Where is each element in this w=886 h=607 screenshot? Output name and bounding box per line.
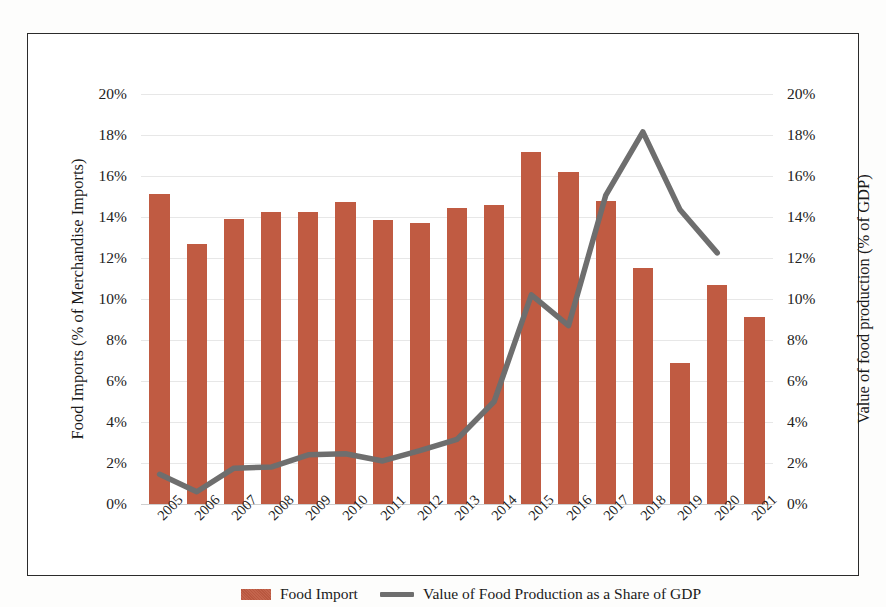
gridline-16% <box>141 176 773 177</box>
y-axis-left-tick-label: 8% <box>106 332 127 348</box>
bar-2007 <box>224 219 244 504</box>
y-axis-left-tick-label: 4% <box>106 414 127 430</box>
y-axis-right-tick-label: 10% <box>787 291 815 307</box>
y-axis-left-tick-label: 0% <box>106 496 127 512</box>
y-axis-left-tick-label: 20% <box>99 86 127 102</box>
gridline-20% <box>141 94 773 95</box>
bar-2010 <box>335 202 355 504</box>
legend-item-value-of-food-production[interactable]: Value of Food Production as a Share of G… <box>380 585 701 603</box>
bar-2018 <box>633 268 653 504</box>
y-axis-right-tick-label: 0% <box>787 496 808 512</box>
bar-2015 <box>521 152 541 504</box>
bar-2014 <box>484 205 504 504</box>
bar-2008 <box>261 212 281 504</box>
chart-legend: Food Import Value of Food Production as … <box>28 585 886 603</box>
bar-2005 <box>149 194 169 504</box>
bar-2009 <box>298 212 318 504</box>
y-axis-right-tick-label: 2% <box>787 455 808 471</box>
y-axis-right-tick-label: 14% <box>787 209 815 225</box>
legend-item-food-import[interactable]: Food Import <box>241 585 358 603</box>
y-axis-right-tick-label: 16% <box>787 168 815 184</box>
chart-figure: 20%18%16%14%12%10%8%6%4%2%0% 20%18%16%14… <box>0 0 886 607</box>
y-axis-right-tick-label: 20% <box>787 86 815 102</box>
line-swatch-icon <box>380 592 414 597</box>
y-axis-left-title: Food Imports (% of Merchandise Imports) <box>68 159 88 440</box>
bar-2017 <box>596 201 616 504</box>
gridline-18% <box>141 135 773 136</box>
bar-2021 <box>744 317 764 504</box>
bar-2019 <box>670 363 690 504</box>
bar-2006 <box>187 244 207 504</box>
y-axis-right-tick-label: 12% <box>787 250 815 266</box>
y-axis-left-tick-label: 6% <box>106 373 127 389</box>
bar-2020 <box>707 285 727 504</box>
legend-label-food-import: Food Import <box>280 585 358 603</box>
bar-2011 <box>373 220 393 504</box>
y-axis-right-title: Value of food production (% of GDP) <box>854 174 874 423</box>
bar-2012 <box>410 223 430 504</box>
x-axis-ticks: 2005200620072008200920102011201220132014… <box>141 512 773 572</box>
chart-frame-border: 20%18%16%14%12%10%8%6%4%2%0% 20%18%16%14… <box>27 33 859 576</box>
bar-swatch-icon <box>241 589 271 600</box>
y-axis-right-tick-label: 18% <box>787 127 815 143</box>
y-axis-right-tick-label: 4% <box>787 414 808 430</box>
y-axis-right-tick-label: 8% <box>787 332 808 348</box>
y-axis-left-tick-label: 10% <box>99 291 127 307</box>
bar-2013 <box>447 208 467 504</box>
y-axis-right-tick-label: 6% <box>787 373 808 389</box>
y-axis-left-tick-label: 16% <box>99 168 127 184</box>
y-axis-left-tick-label: 14% <box>99 209 127 225</box>
bar-2016 <box>558 172 578 504</box>
y-axis-left-tick-label: 18% <box>99 127 127 143</box>
y-axis-left-tick-label: 12% <box>99 250 127 266</box>
y-axis-left-tick-label: 2% <box>106 455 127 471</box>
plot-area: 20%18%16%14%12%10%8%6%4%2%0% 20%18%16%14… <box>141 94 773 504</box>
legend-label-value-of-food-production: Value of Food Production as a Share of G… <box>423 585 701 603</box>
